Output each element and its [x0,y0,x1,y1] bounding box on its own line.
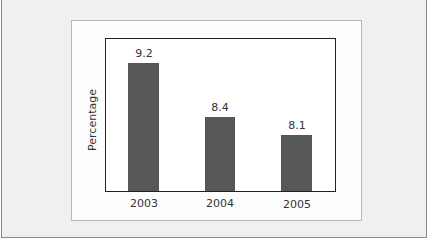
value-label-2004: 8.4 [200,101,240,114]
bar-2003 [128,63,159,191]
x-tick-2003: 2003 [124,197,164,210]
bar-2004 [205,117,235,191]
value-label-2005: 8.1 [277,119,317,132]
x-tick-2004: 2004 [200,197,240,210]
x-tick-2005: 2005 [277,198,317,211]
y-axis-label: Percentage [86,89,99,151]
value-label-2003: 9.2 [124,47,164,60]
bar-2005 [281,135,312,191]
